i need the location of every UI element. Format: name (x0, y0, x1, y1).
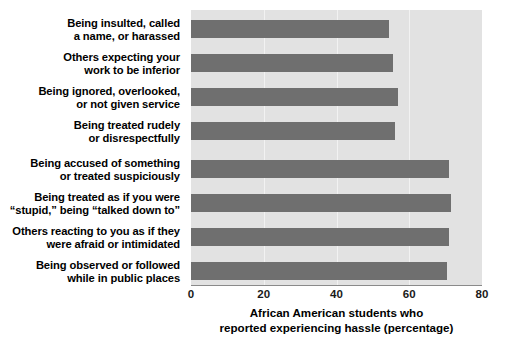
x-tick-label-40: 40 (330, 288, 343, 300)
x-axis-line (191, 285, 482, 286)
plot-area (191, 10, 482, 285)
category-label-4: Being accused of something or treated su… (0, 157, 180, 183)
bar-chart-figure: Being insulted, called a name, or harass… (0, 0, 514, 341)
bar-5 (191, 194, 451, 212)
bar-7 (191, 262, 447, 280)
bar-2 (191, 88, 398, 106)
bar-3 (191, 122, 395, 140)
x-tick-label-0: 0 (188, 288, 194, 300)
x-tick-label-20: 20 (257, 288, 270, 300)
bar-0 (191, 20, 389, 38)
bar-1 (191, 54, 393, 72)
x-axis-title: African American students who reported e… (191, 306, 482, 335)
category-label-6: Others reacting to you as if they were a… (0, 225, 180, 251)
x-tick-label-60: 60 (403, 288, 416, 300)
x-tick-label-80: 80 (476, 288, 489, 300)
category-label-1: Others expecting your work to be inferio… (0, 51, 180, 77)
category-label-0: Being insulted, called a name, or harass… (0, 17, 180, 43)
bar-6 (191, 228, 449, 246)
category-label-2: Being ignored, overlooked, or not given … (0, 85, 180, 111)
category-label-3: Being treated rudely or disrespectfully (0, 119, 180, 145)
category-label-5: Being treated as if you were “stupid,” b… (0, 191, 180, 217)
category-axis-labels: Being insulted, called a name, or harass… (0, 10, 186, 285)
category-label-7: Being observed or followed while in publ… (0, 259, 180, 285)
bar-4 (191, 160, 449, 178)
